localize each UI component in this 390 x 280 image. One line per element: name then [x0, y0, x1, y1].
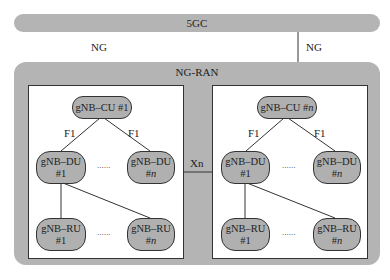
du-ellipsis-right: ......: [282, 160, 296, 170]
cu-name: gNB–CU: [76, 102, 116, 114]
du-name: gNB–DU: [317, 156, 357, 168]
ng-interface-label-right: NG: [306, 41, 322, 53]
cu-index: #n: [303, 102, 314, 114]
f1-label-left-2: F1: [128, 127, 140, 139]
gnb-du-node-right-n: gNB–DU #n: [313, 151, 361, 184]
gnb-cu-node-1: gNB–CU #1: [72, 96, 132, 119]
xn-interface-label: Xn: [190, 157, 203, 169]
f1-label-right-1: F1: [248, 127, 260, 139]
ru-index: #n: [146, 235, 157, 247]
gnb-ru-node-right-n: gNB–RU #n: [313, 218, 361, 251]
5gc-core-network: 5GC: [14, 14, 380, 32]
ru-index: #1: [56, 235, 67, 247]
ru-index: #1: [240, 235, 251, 247]
ru-ellipsis-left: ......: [97, 227, 111, 237]
ng-ran-title: NG-RAN: [14, 66, 380, 78]
f1-label-left-1: F1: [64, 127, 76, 139]
gnb-cu-node-n: gNB–CU #n: [257, 96, 317, 119]
ru-name: gNB–RU: [131, 223, 171, 235]
f1-label-right-2: F1: [314, 127, 326, 139]
du-name: gNB–DU: [131, 156, 171, 168]
du-name: gNB–DU: [225, 156, 265, 168]
du-index: #1: [240, 168, 251, 180]
du-name: gNB–DU: [41, 156, 81, 168]
5gc-label: 5GC: [187, 17, 208, 29]
du-index: #n: [332, 168, 343, 180]
du-index: #n: [146, 168, 157, 180]
gnb-du-node-left-n: gNB–DU #n: [127, 151, 175, 184]
gnb-ru-node-left-1: gNB–RU #1: [36, 218, 86, 251]
gnb-ru-node-right-1: gNB–RU #1: [221, 218, 270, 251]
ng-interface-label-left: NG: [91, 41, 107, 53]
gnb-du-node-right-1: gNB–DU #1: [221, 151, 270, 184]
ru-name: gNB–RU: [317, 223, 357, 235]
ru-name: gNB–RU: [41, 223, 81, 235]
du-ellipsis-left: ......: [97, 160, 111, 170]
ru-name: gNB–RU: [226, 223, 266, 235]
ru-index: #n: [332, 235, 343, 247]
gnb-du-node-left-1: gNB–DU #1: [36, 151, 86, 184]
ru-ellipsis-right: ......: [282, 227, 296, 237]
du-index: #1: [56, 168, 67, 180]
cu-name: gNB–CU: [261, 102, 301, 114]
cu-index: #1: [118, 102, 129, 114]
gnb-ru-node-left-n: gNB–RU #n: [127, 218, 175, 251]
